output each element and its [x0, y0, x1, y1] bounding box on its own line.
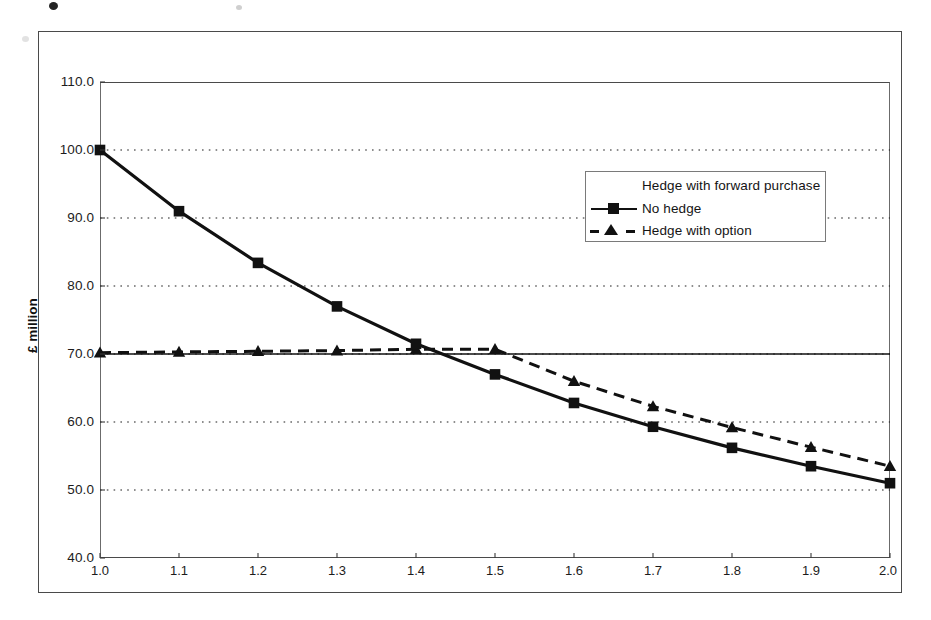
- x-tick-1-3: 1.3: [312, 563, 362, 578]
- y-tick-110: 110.0: [61, 74, 94, 89]
- legend-entry-hedge-with-option: Hedge with option: [586, 219, 825, 242]
- x-tick-1-2: 1.2: [233, 563, 283, 578]
- y-tick-50: 50.0: [67, 482, 94, 497]
- x-tick-1-0: 1.0: [75, 563, 125, 578]
- x-tick-1-5: 1.5: [470, 563, 520, 578]
- legend-label-forward-purchase: Hedge with forward purchase: [642, 178, 820, 193]
- x-tick-1-4: 1.4: [391, 563, 441, 578]
- legend-dash-right: [626, 230, 635, 233]
- y-tick-70: 70.0: [67, 346, 94, 361]
- scan-artifact-dot-2: [236, 5, 242, 10]
- x-tick-1-8: 1.8: [707, 563, 757, 578]
- x-tick-1-6: 1.6: [549, 563, 599, 578]
- legend-label-no-hedge: No hedge: [642, 201, 701, 216]
- triangle-marker-icon: [604, 224, 618, 235]
- y-tick-90: 90.0: [67, 210, 94, 225]
- x-tick-2-0: 2.0: [863, 563, 913, 578]
- legend-key-forward-purchase: [586, 174, 642, 197]
- y-tick-60: 60.0: [67, 414, 94, 429]
- x-tick-1-7: 1.7: [628, 563, 678, 578]
- chart-figure: £ million 110.0 100.0 90.0 80.0 70.0 60.…: [0, 0, 931, 620]
- legend-key-no-hedge: [586, 197, 642, 220]
- legend-key-hedge-with-option: [586, 219, 642, 242]
- x-tick-1-1: 1.1: [154, 563, 204, 578]
- y-tick-80: 80.0: [67, 278, 94, 293]
- x-axis-tick-labels: 1.0 1.1 1.2 1.3 1.4 1.5 1.6 1.7 1.8 1.9 …: [0, 563, 931, 587]
- legend-entry-no-hedge: No hedge: [586, 197, 825, 220]
- plot-area: [100, 82, 890, 558]
- x-tick-1-9: 1.9: [786, 563, 836, 578]
- legend-entry-forward-purchase: Hedge with forward purchase: [586, 174, 825, 197]
- y-axis-tick-labels: 110.0 100.0 90.0 80.0 70.0 60.0 50.0 40.…: [22, 0, 94, 620]
- legend-dash-left: [590, 230, 599, 233]
- y-tick-100: 100.0: [60, 142, 94, 157]
- legend-label-hedge-with-option: Hedge with option: [642, 223, 752, 238]
- chart-legend: Hedge with forward purchase No hedge Hed…: [585, 171, 826, 242]
